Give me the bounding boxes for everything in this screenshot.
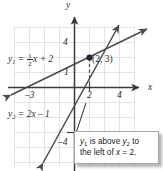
callout-line-2: the left of x = 2. xyxy=(80,147,154,158)
callout-text-c: the left of xyxy=(80,148,116,157)
y2-equals: = xyxy=(18,109,24,119)
y-tick-4: 4 xyxy=(63,38,68,48)
x-tick-2: 2 xyxy=(87,91,92,101)
callout-pointer-line xyxy=(76,103,86,133)
y2-rest: 2x – 1 xyxy=(27,109,50,119)
intersection-label: (2, 3) xyxy=(92,55,113,65)
x-axis-label: x xyxy=(148,83,152,93)
x-tick-4: 4 xyxy=(117,91,122,101)
callout-text-a: is above xyxy=(87,137,122,146)
y-axis-label: y xyxy=(66,1,70,11)
callout-y2-sub: 2 xyxy=(127,141,130,147)
callout-text-b: to xyxy=(130,137,139,146)
graph-figure: y x 4 1 –4 –3 2 4 y1 = 1 2 x + 2 y2 = 2x… xyxy=(0,0,163,171)
y1-frac-numerator: 1 xyxy=(27,52,32,59)
y-tick-1: 1 xyxy=(64,68,69,78)
equation-label-y2: y2 = 2x – 1 xyxy=(8,110,50,120)
x-tick-neg3: –3 xyxy=(25,91,35,101)
y1-frac-denominator: 2 xyxy=(27,59,32,67)
callout-y2: y xyxy=(122,137,126,146)
callout-box: y1 is above y2 to the left of x = 2. xyxy=(74,131,159,164)
callout-y1-sub: 1 xyxy=(84,141,87,147)
equation-label-y1: y1 = 1 2 x + 2 xyxy=(8,52,53,67)
y1-subscript: 1 xyxy=(12,58,15,65)
y2-subscript: 2 xyxy=(12,113,15,120)
callout-text-d: = 2. xyxy=(120,148,136,157)
y1-equals: = xyxy=(18,54,24,64)
y-tick-neg4: –4 xyxy=(58,138,68,148)
callout-line-1: y1 is above y2 to xyxy=(80,136,154,147)
y1-rest: x + 2 xyxy=(33,54,53,64)
y1-fraction: 1 2 xyxy=(27,52,32,67)
